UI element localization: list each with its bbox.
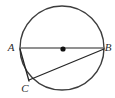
- vertex-label-b: B: [105, 41, 112, 53]
- vertex-label-a: A: [7, 41, 15, 53]
- figure-background: [0, 0, 115, 98]
- circle-diagram-canvas: A B C: [0, 0, 115, 98]
- center-point-dot: [60, 46, 65, 51]
- vertex-label-c: C: [21, 82, 29, 94]
- geometry-figure: A B C: [0, 0, 115, 98]
